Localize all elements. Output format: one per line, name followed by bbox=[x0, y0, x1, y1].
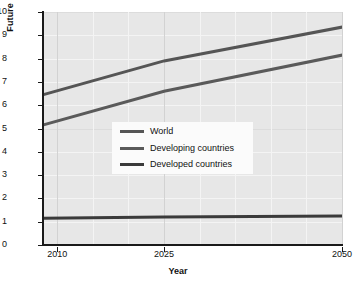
y-axis-tick-label: 6 bbox=[0, 100, 7, 109]
gridline-vertical bbox=[342, 12, 343, 245]
legend-label: World bbox=[150, 127, 173, 136]
chart-legend: WorldDeveloping countriesDeveloped count… bbox=[112, 122, 253, 174]
y-axis-tick bbox=[38, 105, 43, 106]
legend-swatch bbox=[120, 130, 144, 133]
x-axis-title: Year bbox=[0, 266, 356, 276]
y-axis-tick bbox=[38, 198, 43, 199]
legend-label: Developed countries bbox=[150, 160, 232, 169]
y-axis-tick-label: 3 bbox=[0, 170, 7, 179]
x-axis-tick-label: 2010 bbox=[37, 250, 77, 259]
y-axis-tick bbox=[38, 222, 43, 223]
x-axis-line bbox=[42, 244, 343, 246]
y-axis-tick bbox=[38, 245, 43, 246]
x-axis-tick-label: 2050 bbox=[322, 250, 356, 259]
y-axis-tick bbox=[38, 82, 43, 83]
legend-item: Developed countries bbox=[120, 158, 253, 171]
y-axis-tick bbox=[38, 175, 43, 176]
y-axis-tick-label: 10 bbox=[0, 7, 7, 16]
y-axis-tick bbox=[38, 35, 43, 36]
y-axis-title-wrapper: Future population (billions) bbox=[8, 0, 22, 245]
legend-label: Developing countries bbox=[150, 144, 234, 153]
legend-item: Developing countries bbox=[120, 142, 253, 155]
y-axis-tick bbox=[38, 59, 43, 60]
y-axis-tick bbox=[38, 129, 43, 130]
legend-swatch bbox=[120, 163, 144, 166]
chart-container: Future population (billions) 01234567891… bbox=[0, 0, 356, 285]
series-line bbox=[43, 55, 342, 125]
legend-swatch bbox=[120, 147, 144, 150]
y-axis-tick-label: 8 bbox=[0, 54, 7, 63]
y-axis-tick-label: 5 bbox=[0, 124, 7, 133]
y-axis-tick bbox=[38, 12, 43, 13]
y-axis-tick bbox=[38, 152, 43, 153]
y-axis-tick-label: 2 bbox=[0, 193, 7, 202]
y-axis-tick-label: 1 bbox=[0, 217, 7, 226]
x-axis-tick-label: 2025 bbox=[144, 250, 184, 259]
y-axis-tick-label: 7 bbox=[0, 77, 7, 86]
y-axis-tick-label: 9 bbox=[0, 30, 7, 39]
y-axis-tick-label: 4 bbox=[0, 147, 7, 156]
legend-item: World bbox=[120, 125, 253, 138]
series-line bbox=[43, 216, 342, 218]
y-axis-tick-label: 0 bbox=[0, 240, 7, 249]
